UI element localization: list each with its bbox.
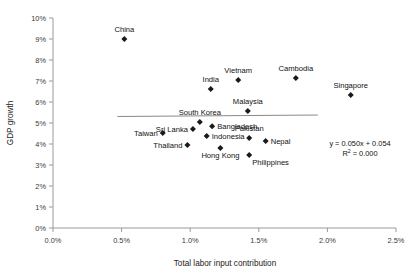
data-point-label: Philippines [252, 158, 289, 167]
y-tick-label: 6% [35, 98, 46, 107]
data-point-marker [204, 133, 210, 139]
data-point-marker [209, 123, 215, 129]
data-point-label: Hong Kong [201, 151, 239, 160]
r-squared-value: = 0.000 [351, 149, 378, 158]
x-tick-label: 2.0% [319, 236, 336, 245]
data-point-label: India [203, 75, 220, 84]
x-tick-label: 0.0% [45, 236, 62, 245]
y-tick-label: 2% [35, 182, 46, 191]
y-tick-label: 0% [35, 224, 46, 233]
data-point-label: Cambodia [279, 64, 314, 73]
chart-canvas: 0%1%2%3%4%5%6%7%8%9%10% 0.0%0.5%1.0%1.5%… [0, 0, 419, 276]
x-axis-title: Total labor input contribution [174, 259, 277, 268]
data-point-label: South Korea [179, 108, 222, 117]
data-point-marker [197, 119, 203, 125]
data-point-label: Singapore [333, 81, 368, 90]
y-tick-label: 7% [35, 77, 46, 86]
data-point-label: Pakistan [235, 124, 264, 133]
data-point-marker [263, 138, 269, 144]
x-tick-label: 0.5% [113, 236, 130, 245]
trendline-r-squared: R2 = 0.000 [342, 148, 377, 158]
data-point-marker [246, 135, 252, 141]
data-point-label: Taiwan [134, 129, 158, 138]
x-tick-label: 2.5% [388, 236, 405, 245]
y-tick-label: 9% [35, 35, 46, 44]
y-axis-title: GDP growth [6, 100, 15, 145]
y-tick-label: 5% [35, 119, 46, 128]
y-tick-label: 1% [35, 203, 46, 212]
scatter-chart: 0%1%2%3%4%5%6%7%8%9%10% 0.0%0.5%1.0%1.5%… [0, 0, 419, 276]
data-point-marker [121, 36, 127, 42]
data-point-marker [190, 126, 196, 132]
x-axis-ticks: 0.0%0.5%1.0%1.5%2.0%2.5% [45, 228, 405, 245]
data-point-label: Malaysia [233, 97, 264, 106]
y-tick-label: 8% [35, 56, 46, 65]
y-tick-label: 10% [31, 14, 46, 23]
data-point-label: Sri Lanka [156, 125, 189, 134]
data-point-label: Nepal [271, 137, 291, 146]
data-point-label: Vietnam [224, 66, 252, 75]
data-point-marker [348, 92, 354, 98]
y-axis-ticks: 0%1%2%3%4%5%6%7%8%9%10% [31, 14, 53, 233]
y-tick-label: 3% [35, 161, 46, 170]
data-point-label: China [114, 25, 135, 34]
y-tick-label: 4% [35, 140, 46, 149]
data-point-marker [208, 86, 214, 92]
trendline-equation: y = 0.050x + 0.054 [329, 139, 390, 148]
x-tick-label: 1.5% [250, 236, 267, 245]
data-point-marker [245, 108, 251, 114]
data-point-marker [184, 142, 190, 148]
data-point-marker [235, 77, 241, 83]
data-point-label: Thailand [153, 141, 182, 150]
data-point-marker [293, 75, 299, 81]
data-point-label: Indonesia [212, 132, 246, 141]
x-tick-label: 1.0% [182, 236, 199, 245]
